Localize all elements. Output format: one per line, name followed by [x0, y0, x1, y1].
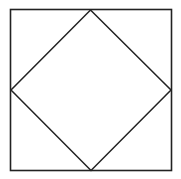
outer-square — [11, 10, 172, 171]
inscribed-diamond — [11, 10, 171, 171]
square-diamond-diagram — [0, 0, 181, 179]
